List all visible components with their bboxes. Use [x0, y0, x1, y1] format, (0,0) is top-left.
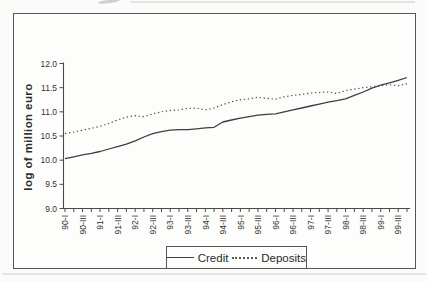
svg-text:11.5: 11.5 — [41, 83, 57, 93]
svg-text:95-I: 95-I — [236, 215, 246, 230]
svg-text:96-I: 96-I — [271, 215, 281, 230]
legend-credit-line-sample — [167, 257, 194, 258]
svg-text:11.0: 11.0 — [41, 107, 57, 117]
svg-text:98-I: 98-I — [341, 215, 351, 230]
svg-text:9.0: 9.0 — [45, 204, 57, 214]
svg-text:99-I: 99-I — [376, 215, 386, 230]
legend-deposits-line-sample — [232, 257, 257, 259]
svg-text:93-I: 93-I — [165, 215, 175, 230]
svg-text:90-III: 90-III — [78, 215, 88, 234]
svg-text:91-III: 91-III — [113, 215, 123, 234]
y-axis-title: log of million euro — [22, 58, 38, 216]
svg-text:99-III: 99-III — [393, 215, 403, 234]
scan-artifact-bottom — [2, 273, 426, 275]
svg-text:93-III: 93-III — [183, 215, 193, 234]
svg-text:95-III: 95-III — [253, 215, 263, 234]
legend-deposits-label: Deposits — [261, 252, 306, 264]
svg-text:10.0: 10.0 — [40, 155, 57, 165]
svg-text:94-III: 94-III — [218, 215, 228, 234]
scanned-chart-page: 9.09.510.010.511.011.512.090-I90-III91-I… — [0, 0, 428, 282]
legend-box: Credit Deposits — [166, 246, 307, 269]
svg-text:10.5: 10.5 — [40, 131, 57, 141]
svg-text:98-III: 98-III — [358, 215, 368, 234]
svg-text:97-III: 97-III — [323, 215, 333, 234]
svg-text:12.0: 12.0 — [40, 59, 57, 69]
svg-text:90-I: 90-I — [60, 215, 70, 230]
legend-credit-label: Credit — [198, 252, 229, 264]
svg-text:9.5: 9.5 — [45, 179, 57, 189]
svg-text:92-III: 92-III — [148, 215, 158, 234]
svg-text:92-I: 92-I — [130, 215, 140, 230]
svg-text:94-I: 94-I — [201, 215, 211, 230]
chart-canvas: 9.09.510.010.511.011.512.090-I90-III91-I… — [0, 0, 428, 282]
svg-text:97-I: 97-I — [306, 215, 316, 230]
svg-text:91-I: 91-I — [95, 215, 105, 230]
svg-text:96-III: 96-III — [288, 215, 298, 234]
